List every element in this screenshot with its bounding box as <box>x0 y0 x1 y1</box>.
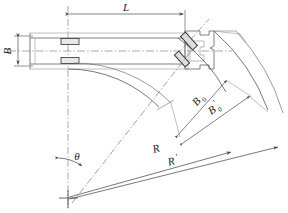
rear-wheel-upper <box>61 39 79 45</box>
radius-R-prime-label-group: R ′ <box>165 151 180 168</box>
steered-wheel-lower <box>174 51 189 67</box>
radius-R-prime-label: R <box>165 154 176 168</box>
band-separator-2 <box>226 80 252 97</box>
radius-line-R-prime <box>70 147 279 199</box>
band-separator-1 <box>171 103 180 137</box>
band-separator-3 <box>250 97 268 112</box>
inner-swept-arc <box>68 69 159 107</box>
theta-label: θ <box>74 150 80 162</box>
radius-R-prime-mark: ′ <box>175 151 179 161</box>
angle-arc-theta: θ <box>59 150 82 166</box>
radius-R-label: R <box>150 141 161 155</box>
dimension-L-label: L <box>122 1 129 13</box>
technical-drawing-svg: L B <box>0 0 288 213</box>
pivot-to-joint-centerline <box>72 50 192 203</box>
rear-wheel-lower <box>61 58 79 64</box>
articulated-joint <box>174 19 214 69</box>
radius-line-R <box>70 152 232 197</box>
dimension-L: L <box>70 1 186 36</box>
swept-band-arc-2 <box>214 31 268 110</box>
diagram-canvas: L B <box>0 0 288 213</box>
